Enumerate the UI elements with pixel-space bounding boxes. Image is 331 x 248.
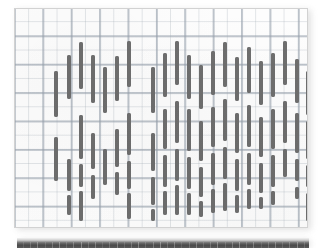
strip-tick bbox=[124, 242, 125, 248]
strip-tick bbox=[73, 242, 74, 248]
bar-segment bbox=[247, 189, 250, 209]
bar-segment bbox=[235, 57, 238, 101]
strip-tick bbox=[239, 242, 240, 248]
bar-segment bbox=[211, 51, 214, 95]
bar-segment bbox=[127, 161, 130, 189]
bar-segment bbox=[187, 157, 190, 189]
bar-segment bbox=[223, 183, 226, 211]
bar-segment bbox=[271, 191, 274, 205]
strip-tick bbox=[88, 242, 89, 248]
bar-segment bbox=[175, 41, 178, 85]
bar-segment bbox=[175, 101, 178, 143]
strip-tick bbox=[37, 242, 38, 248]
bar-segment bbox=[163, 155, 166, 187]
strip-tick bbox=[246, 242, 247, 248]
bar-segment bbox=[199, 121, 202, 161]
bar-segment bbox=[91, 133, 94, 169]
bar-segment bbox=[211, 153, 214, 185]
strip-tick bbox=[23, 242, 24, 248]
strip-tick bbox=[160, 242, 161, 248]
bar-segment bbox=[163, 109, 166, 149]
strip-tick bbox=[289, 242, 290, 248]
bar-segment bbox=[235, 159, 238, 191]
bar-segment bbox=[163, 191, 166, 215]
bar-segment bbox=[103, 149, 106, 185]
strip-tick bbox=[196, 242, 197, 248]
bar-segment bbox=[54, 71, 57, 117]
bar-segment bbox=[187, 109, 190, 151]
strip-tick bbox=[217, 242, 218, 248]
bar-segment bbox=[295, 59, 298, 103]
bar-segment bbox=[259, 163, 262, 193]
bar-segment bbox=[223, 147, 226, 179]
strip-tick bbox=[203, 242, 204, 248]
strip-tick bbox=[95, 242, 96, 248]
bar-segment bbox=[67, 195, 70, 215]
bar-segment bbox=[127, 41, 130, 87]
bar-segment bbox=[211, 107, 214, 147]
bar-segment bbox=[223, 99, 226, 141]
graph-paper-panel bbox=[14, 8, 308, 228]
bar-segment bbox=[271, 155, 274, 187]
bar-segment bbox=[306, 165, 308, 187]
strip-tick bbox=[189, 242, 190, 248]
bar-segment bbox=[127, 193, 130, 219]
strip-tick bbox=[145, 242, 146, 248]
strip-tick bbox=[275, 242, 276, 248]
bar-segment bbox=[103, 67, 106, 113]
bar-segment bbox=[79, 164, 82, 187]
bar-segment bbox=[283, 41, 286, 85]
bar-segment bbox=[223, 42, 226, 87]
bar-segment bbox=[187, 55, 190, 99]
bar-segment bbox=[306, 71, 308, 115]
strip-tick bbox=[304, 242, 305, 248]
strip-tick bbox=[109, 242, 110, 248]
strip-tick bbox=[181, 242, 182, 248]
bar-segment bbox=[283, 149, 286, 177]
bar-segment bbox=[259, 61, 262, 105]
bar-segment bbox=[151, 209, 154, 221]
bar-segment bbox=[151, 177, 154, 205]
figure-root bbox=[0, 0, 331, 248]
bar-segment bbox=[211, 189, 214, 213]
plot-area bbox=[15, 9, 307, 227]
bar-segment bbox=[127, 113, 130, 155]
bar-segment bbox=[235, 113, 238, 153]
bar-segment bbox=[271, 53, 274, 97]
strip-tick bbox=[174, 242, 175, 248]
bar-segment bbox=[79, 191, 82, 221]
strip-tick bbox=[282, 242, 283, 248]
strip-tick bbox=[253, 242, 254, 248]
bar-segment bbox=[175, 185, 178, 215]
bar-segment bbox=[259, 197, 262, 209]
bar-segment bbox=[259, 117, 262, 157]
bar-segment bbox=[199, 167, 202, 197]
bar-segment bbox=[115, 172, 118, 195]
strip-tick bbox=[297, 242, 298, 248]
bar-segment bbox=[54, 137, 57, 181]
strip-tick bbox=[52, 242, 53, 248]
bar-segment bbox=[151, 133, 154, 171]
bar-segment bbox=[295, 159, 298, 181]
strip-tick bbox=[167, 242, 168, 248]
bar-segment bbox=[151, 67, 154, 113]
bar-segment bbox=[115, 56, 118, 101]
strip-tick bbox=[268, 242, 269, 248]
bar-segment bbox=[67, 159, 70, 191]
bar-segment bbox=[199, 201, 202, 217]
bar-segment bbox=[295, 187, 298, 199]
bar-segment bbox=[175, 149, 178, 181]
bar-segment bbox=[91, 175, 94, 199]
strip-tick bbox=[30, 242, 31, 248]
bar-segment bbox=[187, 193, 190, 215]
strip-tick bbox=[232, 242, 233, 248]
bar-segment bbox=[306, 121, 308, 159]
strip-tick bbox=[59, 242, 60, 248]
next-figure-strip bbox=[17, 238, 309, 248]
bar-segment bbox=[283, 101, 286, 143]
strip-tick bbox=[225, 242, 226, 248]
bar-segment bbox=[247, 105, 250, 147]
bar-segment bbox=[306, 193, 308, 221]
strip-tick bbox=[45, 242, 46, 248]
bar-segment bbox=[247, 47, 250, 93]
